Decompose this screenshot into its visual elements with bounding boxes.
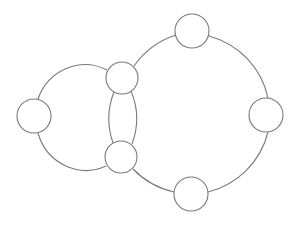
graph-diagram [0,0,294,225]
edge-b-c-right [131,91,137,144]
node-b [106,62,138,94]
node-e [249,98,283,132]
node-c [105,141,137,173]
edge-d-e [209,36,268,98]
node-a [17,99,51,133]
edge-b-d [134,35,176,66]
edge-b-c-left [109,92,114,143]
nodes [17,14,283,211]
edge-a-c [38,133,106,170]
edges [38,35,268,192]
edge-e-f [208,132,268,192]
edge-a-b [38,65,107,99]
node-f [174,177,208,211]
node-d [175,14,209,48]
edge-f-c [133,169,174,192]
